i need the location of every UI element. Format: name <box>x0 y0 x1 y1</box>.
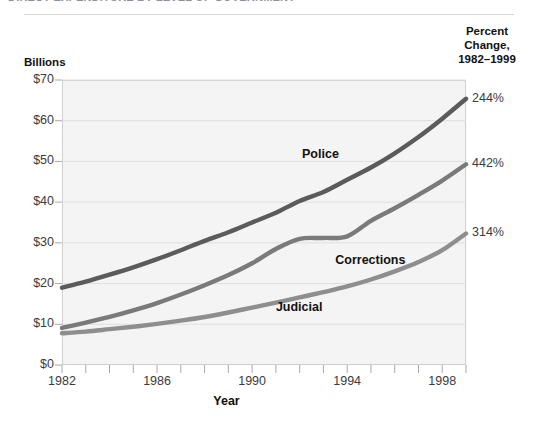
y-axis-tick-label: $0 <box>8 357 54 371</box>
y-axis-tick-label: $30 <box>8 235 54 249</box>
y-axis-tick-label: $70 <box>8 72 54 86</box>
percent-change-corrections: 442% <box>472 156 504 170</box>
chart-plot-wrapper: $0$10$20$30$40$50$60$70 1982198619901994… <box>0 0 537 435</box>
series-label-judicial: Judicial <box>276 300 323 314</box>
y-axis-tick-label: $60 <box>8 113 54 127</box>
y-axis-tick-label: $40 <box>8 194 54 208</box>
x-axis-tick-label: 1986 <box>127 374 187 388</box>
x-axis-tick-label: 1982 <box>32 374 92 388</box>
percent-change-judicial: 314% <box>472 225 504 239</box>
x-axis-title: Year <box>0 394 537 408</box>
series-lines-group <box>62 99 466 334</box>
y-axis-ticks-group <box>55 80 62 365</box>
y-axis-tick-label: $20 <box>8 276 54 290</box>
x-axis-tick-label: 1994 <box>317 374 377 388</box>
y-axis-tick-label: $10 <box>8 316 54 330</box>
x-axis-title-text: Year <box>213 394 239 408</box>
series-label-corrections: Corrections <box>335 253 405 267</box>
chart-vector-layer <box>0 0 537 435</box>
x-axis-tick-label: 1990 <box>222 374 282 388</box>
percent-change-police: 244% <box>472 91 504 105</box>
y-axis-tick-label: $50 <box>8 153 54 167</box>
x-axis-ticks-group <box>62 365 466 373</box>
x-axis-tick-label: 1998 <box>412 374 472 388</box>
series-label-police: Police <box>302 147 339 161</box>
